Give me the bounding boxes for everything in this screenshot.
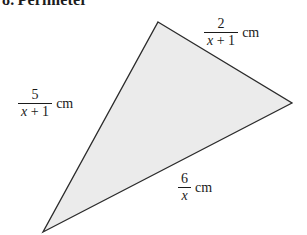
fraction-numerator: 5 <box>29 88 42 103</box>
fraction-5-over-x-plus-1: 5 x + 1 <box>18 88 52 119</box>
fraction-numerator: 2 <box>215 17 228 32</box>
figure-page: 8.Perimeter 2 x + 1 cm 5 x + 1 cm 6 x cm <box>0 0 307 235</box>
side-label-bottom: 6 x cm <box>178 172 212 203</box>
triangle-shape <box>43 22 292 232</box>
unit-cm: cm <box>56 96 73 112</box>
fraction-6-over-x: 6 x <box>178 172 191 203</box>
unit-cm: cm <box>242 25 259 41</box>
fraction-numerator: 6 <box>178 172 191 187</box>
denominator-suffix: + 1 <box>31 104 49 119</box>
unit-cm: cm <box>195 180 212 196</box>
side-label-left: 5 x + 1 cm <box>18 88 73 119</box>
denominator-suffix: + 1 <box>217 33 235 48</box>
fraction-2-over-x-plus-1: 2 x + 1 <box>204 17 238 48</box>
side-label-top: 2 x + 1 cm <box>204 17 259 48</box>
fraction-denominator: x <box>178 188 190 203</box>
variable-x: x <box>21 104 27 119</box>
fraction-denominator: x + 1 <box>204 33 238 48</box>
variable-x: x <box>207 33 213 48</box>
fraction-denominator: x + 1 <box>18 104 52 119</box>
